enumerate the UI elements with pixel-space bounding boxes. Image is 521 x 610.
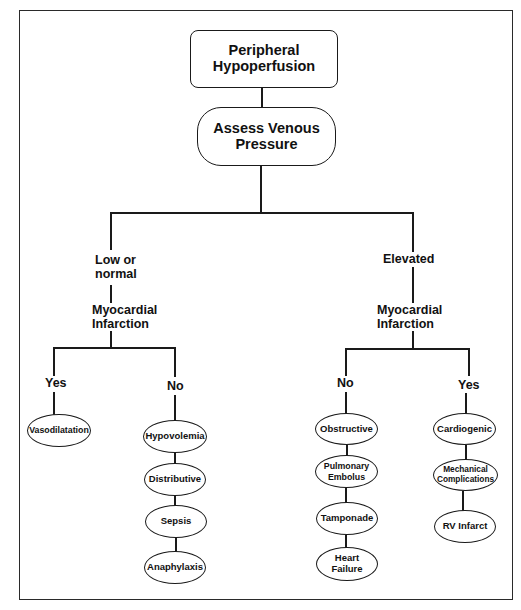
- node-label: Obstructive: [320, 424, 373, 435]
- flowchart-canvas: Peripheral Hypoperfusion Assess Venous P…: [0, 0, 521, 610]
- node-label: RV Infarct: [443, 521, 488, 532]
- node-anaphylaxis: Anaphylaxis: [144, 551, 206, 584]
- node-label: Tamponade: [321, 513, 374, 524]
- answer-yes-right: Yes: [458, 378, 480, 392]
- connector-to-low: [110, 212, 112, 250]
- node-tamponade: Tamponade: [316, 502, 378, 535]
- node-label: Vasodilatation: [29, 425, 89, 435]
- node-label-line2: Pressure: [213, 137, 319, 153]
- connector-sepsis-anaphylaxis: [175, 538, 177, 552]
- connector-mechanical-rv-infarct: [462, 491, 464, 511]
- node-heart-failure: Heart Failure: [316, 547, 378, 581]
- node-label: Hypovolemia: [145, 431, 204, 442]
- node-label-line2: Failure: [331, 564, 362, 575]
- node-label-line2: Embolus: [324, 472, 369, 482]
- node-obstructive: Obstructive: [315, 413, 378, 445]
- condition-elevated: Elevated: [383, 252, 434, 266]
- question-line2: Infarction: [377, 317, 442, 331]
- node-cardiogenic: Cardiogenic: [433, 413, 496, 445]
- question-line1: Myocardial: [92, 303, 157, 317]
- connector-low-mi: [110, 285, 112, 303]
- condition-line2: normal: [95, 267, 137, 281]
- connector-mi-split-right: [412, 331, 414, 349]
- node-mechanical-complications: Mechanical Complications: [433, 459, 498, 491]
- connector-yes-vasodilatation: [53, 392, 55, 415]
- question-line2: Infarction: [92, 317, 157, 331]
- connector-to-no-right: [345, 348, 347, 376]
- question-mi-right: Myocardial Infarction: [377, 303, 442, 332]
- node-label-line1: Peripheral: [213, 43, 315, 59]
- connector-root-assess: [261, 88, 263, 108]
- condition-line1: Low or: [95, 253, 137, 267]
- node-vasodilatation: Vasodilatation: [27, 414, 91, 447]
- connector-mi-split-left: [110, 331, 112, 348]
- node-sepsis: Sepsis: [145, 505, 207, 538]
- connector-no-hypovolemia: [174, 395, 176, 421]
- question-line1: Myocardial: [377, 303, 442, 317]
- node-label-line1: Assess Venous: [213, 121, 319, 137]
- connector-to-yes-right: [468, 348, 470, 376]
- connector-mi-horizontal-left: [53, 347, 175, 349]
- node-assess-venous-pressure: Assess Venous Pressure: [197, 107, 336, 166]
- node-pulmonary-embolus: Pulmonary Embolus: [315, 455, 378, 488]
- node-label: Anaphylaxis: [147, 562, 203, 573]
- answer-no-left: No: [167, 379, 184, 393]
- connector-to-elevated: [412, 212, 414, 252]
- connector-venous-split: [110, 212, 413, 214]
- node-label-line1: Pulmonary: [324, 461, 369, 471]
- node-label-line2: Hypoperfusion: [213, 59, 315, 75]
- node-peripheral-hypoperfusion: Peripheral Hypoperfusion: [190, 30, 338, 88]
- connector-elevated-mi: [412, 267, 414, 303]
- connector-yes-cardiogenic: [465, 393, 467, 414]
- node-label: Distributive: [149, 474, 201, 485]
- connector-assess-split: [260, 166, 262, 213]
- connector-pe-tamponade: [345, 488, 347, 503]
- connector-cardiogenic-mechanical: [465, 445, 467, 460]
- question-mi-left: Myocardial Infarction: [92, 303, 157, 332]
- node-label: Cardiogenic: [437, 424, 492, 435]
- connector-to-yes-left: [53, 347, 55, 377]
- condition-low-or-normal: Low or normal: [95, 253, 137, 282]
- connector-to-no-left: [174, 347, 176, 377]
- connector-no-obstructive: [345, 392, 347, 414]
- connector-mi-horizontal-right: [345, 348, 469, 350]
- answer-no-right: No: [337, 376, 354, 390]
- node-label-line2: Complications: [437, 475, 494, 485]
- node-hypovolemia: Hypovolemia: [143, 420, 207, 453]
- answer-yes-left: Yes: [45, 376, 67, 390]
- node-rv-infarct: RV Infarct: [434, 510, 496, 543]
- node-label: Sepsis: [161, 516, 192, 527]
- node-distributive: Distributive: [144, 463, 206, 496]
